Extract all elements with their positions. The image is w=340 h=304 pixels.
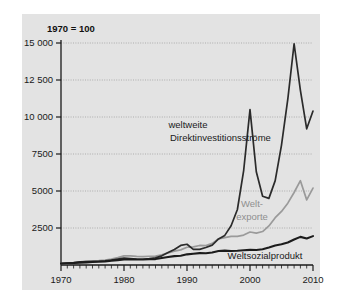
x-tick-label-1980: 1980 xyxy=(113,274,134,285)
y-tick-label-7500: 7500 xyxy=(32,148,53,159)
unit-note: 1970 = 100 xyxy=(47,23,95,34)
y-ticks-group xyxy=(56,43,61,228)
fdi-label-line1: weltweite xyxy=(167,119,207,130)
x-tick-label-2000: 2000 xyxy=(239,274,260,285)
exports-label-line2: exporte xyxy=(236,211,268,222)
fdi-label-line2: Direktinvestitionsströme xyxy=(170,132,271,143)
x-tick-label-1990: 1990 xyxy=(176,274,197,285)
y-tick-label-5000: 5000 xyxy=(32,185,53,196)
series-line-direktinvestitionen xyxy=(61,44,313,264)
y-tick-label-2500: 2500 xyxy=(32,222,53,233)
gdp-label: Weltsozialprodukt xyxy=(228,250,303,261)
exports-label-line1: Welt- xyxy=(241,198,263,209)
y-tick-label-15000: 15 000 xyxy=(24,37,53,48)
y-tick-label-12500: 12 500 xyxy=(24,74,53,85)
y-tick-label-10000: 10 000 xyxy=(24,111,53,122)
x-tick-label-1970: 1970 xyxy=(50,274,71,285)
x-tick-label-2010: 2010 xyxy=(302,274,323,285)
chart-svg: 1970 = 100 15 000 12 500 10 000 7500 500… xyxy=(0,0,340,304)
chart-container: 1970 = 100 15 000 12 500 10 000 7500 500… xyxy=(0,0,340,304)
